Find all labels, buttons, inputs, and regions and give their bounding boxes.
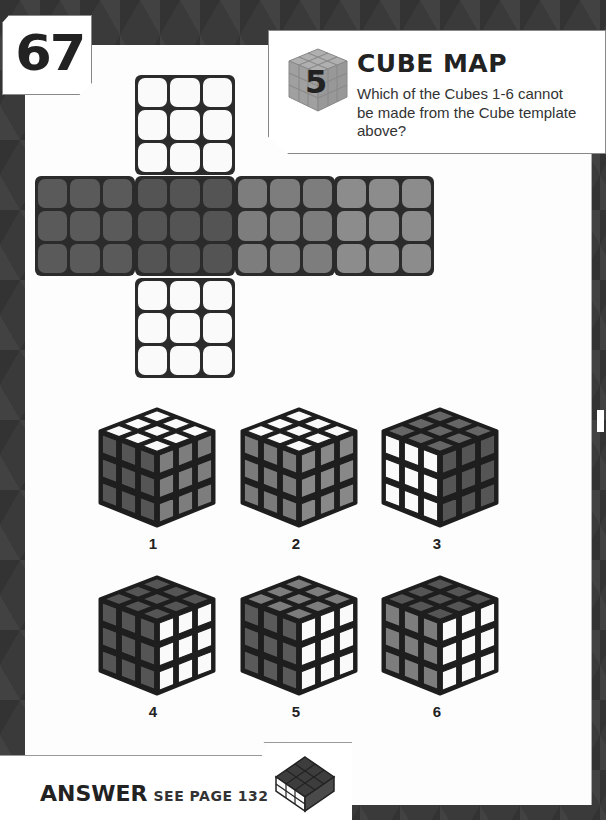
cube-3-icon (379, 405, 501, 530)
option-label-4: 4 (92, 703, 214, 720)
page-edge-tab (597, 410, 604, 432)
net-face-center (135, 176, 235, 276)
net-face-top (135, 75, 235, 175)
cube-1-icon (96, 405, 218, 530)
option-label-5: 5 (235, 703, 357, 720)
option-label-1: 1 (92, 535, 214, 552)
title-panel: 5 CUBE MAP Which of the Cubes 1-6 cannot… (268, 30, 606, 154)
puzzle-number-badge: 67 (2, 15, 92, 95)
net-face-far-right (334, 176, 434, 276)
cube-4-icon (96, 573, 218, 698)
option-cube-5[interactable] (238, 573, 360, 698)
net-face-right (235, 176, 335, 276)
net-face-bottom (135, 278, 235, 378)
option-cube-1[interactable] (96, 405, 218, 530)
option-cube-6[interactable] (379, 573, 501, 698)
puzzle-title: CUBE MAP (357, 49, 507, 78)
option-cube-2[interactable] (238, 405, 360, 530)
answer-page-ref: SEE PAGE 132 (154, 788, 269, 804)
difficulty-cube-icon: 5 (287, 47, 349, 113)
option-label-3: 3 (376, 535, 498, 552)
option-label-6: 6 (376, 703, 498, 720)
puzzle-number: 67 (15, 24, 84, 82)
difficulty-level: 5 (305, 63, 327, 101)
option-cube-4[interactable] (96, 573, 218, 698)
option-label-2: 2 (235, 535, 357, 552)
cube-2-icon (238, 405, 360, 530)
answer-reference: ANSWERSEE PAGE 132 (40, 781, 269, 806)
cube-5-icon (238, 573, 360, 698)
cube-6-icon (379, 573, 501, 698)
answer-cube-icon (274, 755, 336, 817)
option-cube-3[interactable] (379, 405, 501, 530)
answer-label: ANSWER (40, 781, 148, 806)
puzzle-question: Which of the Cubes 1-6 cannot be made fr… (357, 85, 577, 141)
net-face-left (35, 176, 135, 276)
